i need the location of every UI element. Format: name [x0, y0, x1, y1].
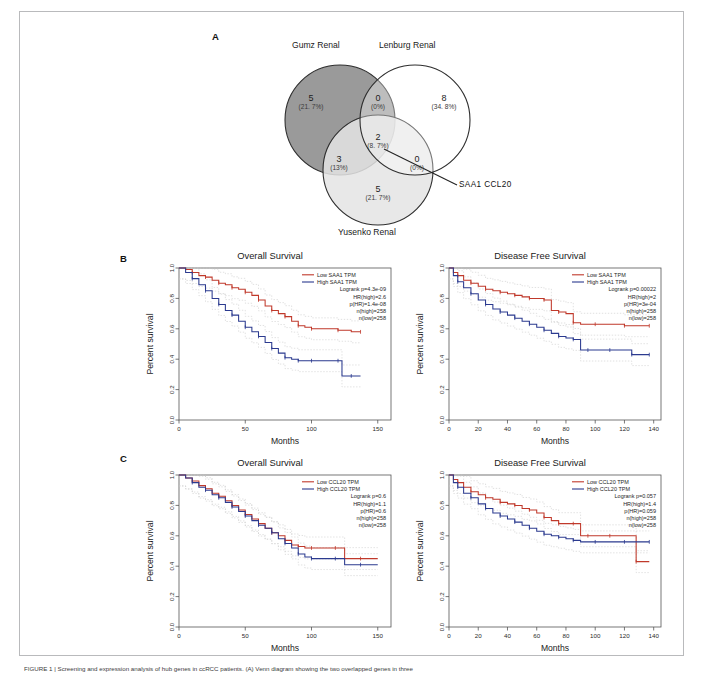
legend-label: High SAA1 TPM: [587, 279, 627, 285]
chart-panel-b-disease-free-survival: Disease Free Survival 020406080100120140…: [405, 250, 675, 450]
panel-letter-c: C: [120, 453, 127, 464]
venn-diagram: Gumz Renal Lenburg Renal Yusenko Renal 5…: [235, 37, 525, 242]
venn-region-count: 5: [358, 184, 398, 194]
chart-statistic: n(low)=258: [359, 315, 386, 321]
panel-letter-b: B: [120, 253, 127, 264]
chart-statistic: HR(high)=2.6: [353, 294, 386, 300]
chart-statistic: n(low)=258: [359, 522, 386, 528]
y-axis-tick-label: 1.0: [168, 263, 175, 272]
figure-frame: A Gumz Renal Lenburg Renal Yusenko Renal…: [19, 11, 684, 656]
y-axis-tick-label: 0.6: [168, 324, 175, 333]
x-axis-tick-label: 150: [373, 632, 384, 639]
y-axis-tick-label: 0.0: [438, 622, 445, 631]
venn-region-count: 3: [319, 154, 359, 164]
panel-letter-a: A: [212, 31, 219, 42]
chart-statistic: n(high)=258: [626, 308, 656, 314]
confidence-band: [179, 486, 378, 570]
chart-statistic: n(low)=258: [629, 522, 656, 528]
x-axis-tick-label: 100: [590, 425, 601, 432]
confidence-band: [179, 279, 361, 343]
y-axis-title: Percent survival: [145, 268, 155, 420]
chart-title: Disease Free Survival: [405, 457, 675, 468]
y-axis-tick-label: 1.0: [168, 470, 175, 479]
venn-label-gumz-renal: Gumz Renal: [292, 40, 340, 50]
y-axis-tick-label: 0.8: [438, 294, 445, 303]
y-axis-tick-label: 0.0: [168, 415, 175, 424]
y-axis-tick-label: 0.8: [168, 294, 175, 303]
y-axis-tick-label: 0.4: [168, 561, 175, 570]
chart-statistic: p(HR)=0.6: [360, 508, 386, 514]
venn-region-percent: (0%): [397, 164, 437, 171]
x-axis-tick-label: 100: [306, 425, 317, 432]
x-axis-tick-label: 50: [242, 425, 249, 432]
x-axis-tick-label: 100: [306, 632, 317, 639]
chart-statistic: HR(high)=1.4: [623, 501, 656, 507]
chart-statistic: n(high)=258: [356, 515, 386, 521]
x-axis-title: Months: [449, 436, 661, 446]
venn-region-count: 5: [291, 93, 331, 103]
x-axis-tick-label: 0: [177, 425, 181, 432]
x-axis-tick-label: 80: [563, 632, 570, 639]
y-axis-tick-label: 0.4: [168, 354, 175, 363]
venn-region-count: 8: [424, 93, 464, 103]
venn-region-percent: (8. 7%): [358, 142, 398, 149]
x-axis-tick-label: 80: [563, 425, 570, 432]
y-axis-tick-label: 0.8: [168, 501, 175, 510]
chart-statistic: Logrank p=0.6: [351, 493, 386, 499]
y-axis-title: Percent survival: [415, 268, 425, 420]
venn-region-percent: (21. 7%): [358, 194, 398, 201]
x-axis-tick-label: 100: [590, 632, 601, 639]
confidence-band: [179, 486, 378, 576]
y-axis-tick-label: 0.2: [168, 385, 175, 394]
x-axis-tick-label: 40: [504, 425, 511, 432]
x-axis-title: Months: [179, 643, 391, 653]
legend-label: High CCL20 TPM: [587, 486, 630, 492]
venn-region-gumz-yusenko: 3 (13%): [319, 154, 359, 171]
venn-region-yusenko-only: 5 (21. 7%): [358, 184, 398, 201]
chart-statistic: n(high)=258: [626, 515, 656, 521]
survival-curve: [449, 475, 649, 542]
chart-panel-c-disease-free-survival: Disease Free Survival 020406080100120140…: [405, 457, 675, 657]
venn-region-lenburg-only: 8 (34. 8%): [424, 93, 464, 110]
venn-region-lenburg-yusenko: 0 (0%): [397, 154, 437, 171]
y-axis-tick-label: 0.4: [438, 354, 445, 363]
y-axis-tick-label: 1.0: [438, 470, 445, 479]
y-axis-tick-label: 1.0: [438, 263, 445, 272]
venn-region-percent: (0%): [358, 103, 398, 110]
venn-region-count: 0: [397, 154, 437, 164]
y-axis-title: Percent survival: [145, 475, 155, 627]
x-axis-tick-label: 50: [242, 632, 249, 639]
y-axis-tick-label: 0.2: [168, 592, 175, 601]
chart-plot-area: 0501001500.00.20.40.60.81.0Low CCL20 TPM…: [135, 469, 405, 657]
venn-label-lenburg-renal: Lenburg Renal: [379, 40, 435, 50]
venn-region-count: 0: [358, 93, 398, 103]
chart-statistic: n(high)=258: [356, 308, 386, 314]
chart-statistic: p(HR)=3e-04: [624, 301, 656, 307]
x-axis-tick-label: 120: [619, 425, 630, 432]
y-axis-tick-label: 0.0: [438, 415, 445, 424]
x-axis-tick-label: 60: [533, 425, 540, 432]
x-axis-tick-label: 120: [619, 632, 630, 639]
legend-label: High SAA1 TPM: [317, 279, 357, 285]
chart-statistic: p(HR)=0.059: [624, 508, 656, 514]
x-axis-tick-label: 150: [373, 425, 384, 432]
y-axis-tick-label: 0.6: [168, 531, 175, 540]
chart-statistic: n(low)=258: [629, 315, 656, 321]
chart-statistic: Logrank p=4.3e-09: [340, 286, 386, 292]
chart-statistic: p(HR)=1.4e-08: [349, 301, 386, 307]
legend-label: Low CCL20 TPM: [587, 479, 629, 485]
y-axis-tick-label: 0.0: [168, 622, 175, 631]
x-axis-tick-label: 40: [504, 632, 511, 639]
venn-region-percent: (21. 7%): [291, 103, 331, 110]
venn-label-yusenko-renal: Yusenko Renal: [338, 227, 396, 237]
venn-annotation-genes: SAA1 CCL20: [459, 180, 512, 189]
venn-region-percent: (34. 8%): [424, 103, 464, 110]
chart-plot-area: 0204060801001201400.00.20.40.60.81.0Low …: [405, 469, 675, 657]
chart-title: Overall Survival: [135, 250, 405, 261]
y-axis-tick-label: 0.2: [438, 592, 445, 601]
legend-label: Low CCL20 TPM: [317, 479, 359, 485]
x-axis-title: Months: [449, 643, 661, 653]
y-axis-tick-label: 0.6: [438, 531, 445, 540]
x-axis-tick-label: 140: [649, 632, 660, 639]
y-axis-title: Percent survival: [415, 475, 425, 627]
